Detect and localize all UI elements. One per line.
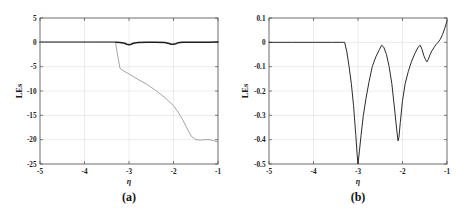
x-tick-label: -4 <box>82 168 88 176</box>
x-tick-label: -2 <box>171 168 177 176</box>
y-tick-label: -0.1 <box>254 63 266 71</box>
panel-a-y-axis-title: LEs <box>15 83 24 98</box>
x-tick-label: -5 <box>266 168 272 176</box>
panel-b-y-axis-title: LEs <box>241 83 250 98</box>
y-tick-label: -20 <box>27 136 37 144</box>
y-tick-label: -5 <box>31 63 37 71</box>
y-tick-label: -10 <box>27 88 37 96</box>
x-tick-label: -5 <box>37 168 43 176</box>
y-tick-label: -0.4 <box>254 136 266 144</box>
panel-b-caption: (b) <box>351 190 366 204</box>
panel-b-x-tick-labels: -5-4-3-2-1 <box>266 168 450 176</box>
panel-a-x-axis-title: η <box>127 177 132 186</box>
panel-a-x-tick-labels: -5-4-3-2-1 <box>37 168 221 176</box>
panel-b-gridlines <box>269 18 447 164</box>
figure-container: 50-5-10-15-20-25 -5-4-3-2-1 LEs η (a) 0.… <box>0 0 461 208</box>
panel-a-svg: 50-5-10-15-20-25 -5-4-3-2-1 LEs η (a) <box>0 0 230 208</box>
chart-panel-a: 50-5-10-15-20-25 -5-4-3-2-1 LEs η (a) <box>0 0 230 208</box>
x-tick-label: -4 <box>311 168 317 176</box>
y-tick-label: 0.1 <box>257 15 266 23</box>
panel-a-y-tick-labels: 50-5-10-15-20-25 <box>27 15 37 169</box>
panel-a-caption: (a) <box>122 190 136 204</box>
x-tick-label: -1 <box>215 168 221 176</box>
y-tick-label: -0.3 <box>254 112 266 120</box>
x-tick-label: -2 <box>400 168 406 176</box>
y-tick-label: -0.2 <box>254 88 266 96</box>
y-tick-label: -25 <box>27 161 37 169</box>
x-tick-label: -3 <box>355 168 361 176</box>
panel-b-svg: 0.10-0.1-0.2-0.3-0.4-0.5 -5-4-3-2-1 LEs … <box>231 0 461 208</box>
y-tick-label: -0.5 <box>254 161 266 169</box>
x-tick-label: -1 <box>444 168 450 176</box>
panel-b-x-axis-title: η <box>356 177 361 186</box>
y-tick-label: -15 <box>27 112 37 120</box>
chart-panel-b: 0.10-0.1-0.2-0.3-0.4-0.5 -5-4-3-2-1 LEs … <box>231 0 461 208</box>
y-tick-label: 0 <box>33 39 37 47</box>
y-tick-label: 0 <box>262 39 266 47</box>
x-tick-label: -3 <box>126 168 132 176</box>
y-tick-label: 5 <box>33 15 37 23</box>
panel-a-gridlines <box>40 18 218 164</box>
panel-b-y-tick-labels: 0.10-0.1-0.2-0.3-0.4-0.5 <box>254 15 266 169</box>
